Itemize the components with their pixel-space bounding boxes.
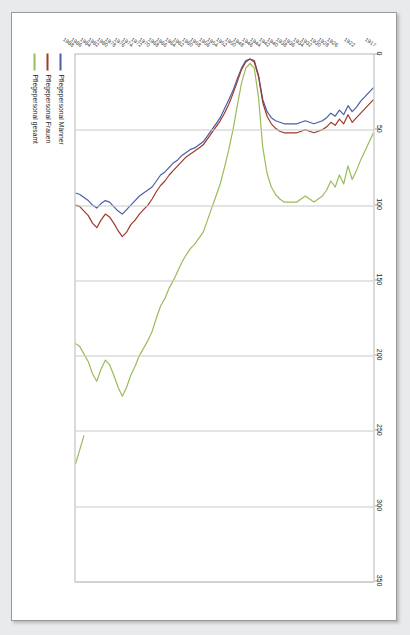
series-line bbox=[75, 59, 373, 237]
scanned-page-background: 050100150200250300350 191719221926192819… bbox=[0, 0, 410, 635]
legend-color-swatch bbox=[47, 53, 49, 70]
gridline bbox=[75, 129, 373, 130]
series-canvas bbox=[75, 54, 373, 581]
gridline bbox=[75, 506, 373, 507]
rotated-chart-container: 050100150200250300350 191719221926192819… bbox=[12, 13, 396, 620]
series-line bbox=[75, 59, 373, 214]
year-axis-tick-label: 1922 bbox=[342, 36, 355, 48]
value-axis-tick-label: 350 bbox=[375, 574, 382, 586]
value-axis-tick-label: 250 bbox=[375, 424, 382, 436]
value-axis-tick-label: 200 bbox=[375, 348, 382, 360]
value-axis-tick-label: 150 bbox=[375, 273, 382, 285]
value-axis-tick-label: 300 bbox=[375, 499, 382, 511]
plot-area bbox=[74, 53, 374, 582]
gridline bbox=[75, 280, 373, 281]
year-axis: 1917192219261928193019321934193619381940… bbox=[74, 13, 374, 51]
year-axis-tick-label: 1917 bbox=[363, 36, 376, 48]
legend-item[interactable]: Pflegepersonal Frauen bbox=[44, 53, 51, 143]
legend-item[interactable]: Pflegepersonal Männer bbox=[57, 53, 64, 144]
gridline bbox=[75, 355, 373, 356]
value-axis-tick-label: 50 bbox=[375, 124, 382, 132]
legend-label: Pflegepersonal Frauen bbox=[44, 74, 51, 143]
legend-color-swatch bbox=[60, 53, 62, 70]
line-chart: 050100150200250300350 191719221926192819… bbox=[12, 13, 396, 620]
value-axis-tick-label: 100 bbox=[375, 198, 382, 210]
legend-label: Pflegepersonal gesamt bbox=[31, 74, 38, 144]
gridline bbox=[75, 205, 373, 206]
legend-color-swatch bbox=[34, 53, 36, 70]
value-axis-tick-label: 0 bbox=[375, 51, 382, 55]
value-axis: 050100150200250300350 bbox=[374, 53, 396, 582]
gridline bbox=[75, 430, 373, 431]
series-line-late-segment bbox=[75, 435, 84, 464]
paper-sheet: 050100150200250300350 191719221926192819… bbox=[11, 12, 397, 621]
gridline bbox=[75, 581, 373, 582]
legend-label: Pflegepersonal Männer bbox=[57, 74, 64, 144]
legend-item[interactable]: Pflegepersonal gesamt bbox=[31, 53, 38, 144]
